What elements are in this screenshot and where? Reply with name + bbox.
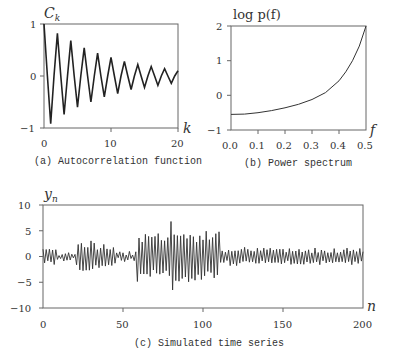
caption-b: (b) Power spectrum — [244, 158, 352, 169]
autocorrelation-line — [44, 24, 178, 124]
b-ytick-0: 0 — [216, 90, 222, 101]
power-spectrum-line — [231, 26, 366, 114]
a-ytick-0: 0 — [30, 71, 36, 82]
c-ytick-m5: −5 — [17, 277, 32, 288]
a-xlabel: k — [183, 120, 191, 136]
c-ytick-m10: −10 — [10, 303, 31, 314]
c-xtick-0: 0 — [40, 319, 46, 330]
b-xtick-0: 0.0 — [222, 140, 238, 151]
c-xlabel: n — [367, 298, 376, 314]
c-ytick-5: 5 — [25, 226, 31, 237]
b-xtick-1: 0.1 — [249, 140, 265, 151]
a-xtick-20: 20 — [171, 138, 184, 149]
time-series-line — [43, 222, 363, 291]
b-ytick-m1: −1 — [207, 125, 222, 136]
c-xtick-200: 200 — [353, 319, 372, 330]
a-xtick-0: 0 — [41, 138, 47, 149]
c-ytick-0: 0 — [25, 251, 31, 262]
a-xtick-10: 10 — [104, 138, 117, 149]
panel-c-time-series: 10 5 0 −5 −10 0 50 100 150 200 yn n (c) … — [10, 186, 376, 349]
a-ylabel: Ck — [44, 5, 60, 23]
a-ytick-1: 1 — [30, 19, 36, 30]
b-ylabel: log p(f) — [233, 7, 281, 22]
panel-c-frame — [43, 205, 363, 308]
b-xtick-5: 0.5 — [357, 140, 373, 151]
b-xtick-2: 0.2 — [276, 140, 292, 151]
c-ytick-10: 10 — [18, 200, 31, 211]
panel-a-autocorrelation: 1 0 −1 0 10 20 Ck k (a) Autocorrelation … — [20, 5, 202, 167]
a-ytick-m1: −1 — [20, 123, 35, 134]
b-xlabel: f — [369, 122, 378, 138]
caption-c: (c) Simulated time series — [134, 338, 284, 349]
c-xtick-150: 150 — [273, 319, 292, 330]
c-xtick-100: 100 — [193, 319, 212, 330]
caption-a: (a) Autocorrelation function — [34, 156, 202, 167]
c-xtick-50: 50 — [116, 319, 129, 330]
c-ylabel: yn — [43, 186, 58, 204]
b-xtick-3: 0.3 — [303, 140, 319, 151]
panel-b-power-spectrum: 2 1 0 −1 0.0 0.1 0.2 0.3 0.4 0.5 log p(f… — [207, 7, 378, 169]
figure: 1 0 −1 0 10 20 Ck k (a) Autocorrelation … — [0, 0, 396, 364]
b-ytick-1: 1 — [216, 55, 222, 66]
b-ytick-2: 2 — [216, 21, 222, 32]
b-xtick-4: 0.4 — [330, 140, 346, 151]
panel-b-frame — [231, 26, 366, 130]
